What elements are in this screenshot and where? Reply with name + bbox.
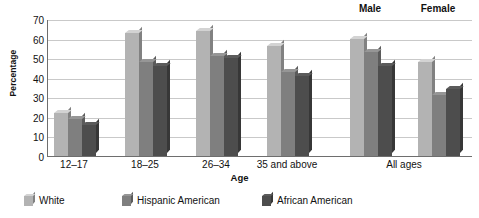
x-tick-label: 18–25 [131, 159, 159, 170]
x-tick-label: 35 and above [257, 159, 318, 170]
bar [378, 66, 392, 156]
bar [267, 46, 281, 156]
legend-swatch-icon [122, 196, 131, 206]
bar [418, 62, 432, 156]
bar-group [196, 20, 238, 156]
y-tick-label: 10 [18, 132, 44, 143]
bar-side-face [460, 83, 463, 153]
x-tick-label: 12–17 [60, 159, 88, 170]
y-tick-label: 70 [18, 15, 44, 26]
x-axis-tick-labels: 12–1718–2526–3435 and aboveAll ages [47, 159, 472, 173]
bar-face [378, 66, 392, 156]
y-tick-label: 20 [18, 112, 44, 123]
legend-item: White [24, 195, 65, 206]
bar [281, 72, 295, 156]
bar-face [210, 56, 224, 156]
chart-legend: WhiteHispanic AmericanAfrican American [12, 195, 472, 211]
bar-group [267, 20, 309, 156]
plot-area [47, 20, 472, 157]
bar-group [54, 20, 96, 156]
y-tick-label: 0 [18, 152, 44, 163]
bar [125, 33, 139, 156]
legend-label: Hispanic American [137, 195, 220, 206]
y-tick-label: 60 [18, 34, 44, 45]
bar-face [281, 72, 295, 156]
bar-face [196, 31, 210, 156]
bar-face [139, 62, 153, 156]
bar-group [418, 20, 460, 156]
group-annotation: Male [359, 3, 381, 14]
y-tick-label: 40 [18, 73, 44, 84]
bar [68, 119, 82, 156]
legend-item: Hispanic American [122, 195, 220, 206]
bar-face [82, 125, 96, 156]
bar-group [125, 20, 167, 156]
bar-face [295, 76, 309, 156]
bar-face [125, 33, 139, 156]
bar-chart: Percentage 010203040506070 12–1718–2526–… [0, 0, 479, 218]
bar [350, 39, 364, 156]
bar [224, 58, 238, 156]
bar [210, 56, 224, 156]
bar-face [350, 39, 364, 156]
bar [54, 113, 68, 156]
bar-face [267, 46, 281, 156]
bar-side-face [392, 60, 395, 153]
y-axis-tick-labels: 010203040506070 [12, 20, 44, 157]
bar [446, 89, 460, 156]
bar [82, 125, 96, 156]
bar-side-face [238, 52, 241, 153]
x-tick-label: All ages [386, 159, 422, 170]
bar-face [446, 89, 460, 156]
bar [364, 52, 378, 156]
bar-face [432, 95, 446, 156]
bars-layer [48, 20, 472, 156]
bar [139, 62, 153, 156]
bar [153, 66, 167, 156]
y-tick-label: 30 [18, 93, 44, 104]
x-tick-label: 26–34 [202, 159, 230, 170]
bar-face [418, 62, 432, 156]
bar-face [153, 66, 167, 156]
bar-face [68, 119, 82, 156]
y-tick-label: 50 [18, 54, 44, 65]
bar [432, 95, 446, 156]
x-axis-title: Age [0, 172, 479, 183]
bar [295, 76, 309, 156]
bar-group [350, 20, 392, 156]
bar-face [224, 58, 238, 156]
bar-side-face [309, 69, 312, 153]
bar-face [54, 113, 68, 156]
bar-side-face [167, 60, 170, 153]
legend-label: African American [277, 195, 353, 206]
legend-item: African American [262, 195, 353, 206]
bar-face [364, 52, 378, 156]
legend-label: White [39, 195, 65, 206]
group-annotation: Female [421, 3, 455, 14]
legend-swatch-icon [24, 196, 33, 206]
legend-swatch-icon [262, 196, 271, 206]
bar [196, 31, 210, 156]
